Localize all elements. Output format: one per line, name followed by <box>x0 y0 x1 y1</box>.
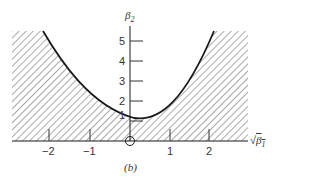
x-tick-label-neg1: −1 <box>83 146 96 157</box>
y-ticks <box>130 41 143 121</box>
y-axis-label: β2 <box>125 10 134 24</box>
figure-caption: (b) <box>124 162 137 173</box>
y-tick-label-3: 3 <box>119 76 125 87</box>
x-tick-label-2: 2 <box>206 146 212 157</box>
y-axis-label-subscript: 2 <box>130 15 134 24</box>
y-tick-label-1: 1 <box>119 110 125 121</box>
x-tick-label-neg2: −2 <box>42 146 55 157</box>
y-tick-label-5: 5 <box>119 36 125 47</box>
x-axis-label-symbol: β1 <box>256 134 265 146</box>
x-axis-label: √β1 <box>250 135 266 149</box>
y-tick-label-4: 4 <box>119 56 125 67</box>
x-tick-label-1: 1 <box>167 146 173 157</box>
y-tick-label-2: 2 <box>119 96 125 107</box>
